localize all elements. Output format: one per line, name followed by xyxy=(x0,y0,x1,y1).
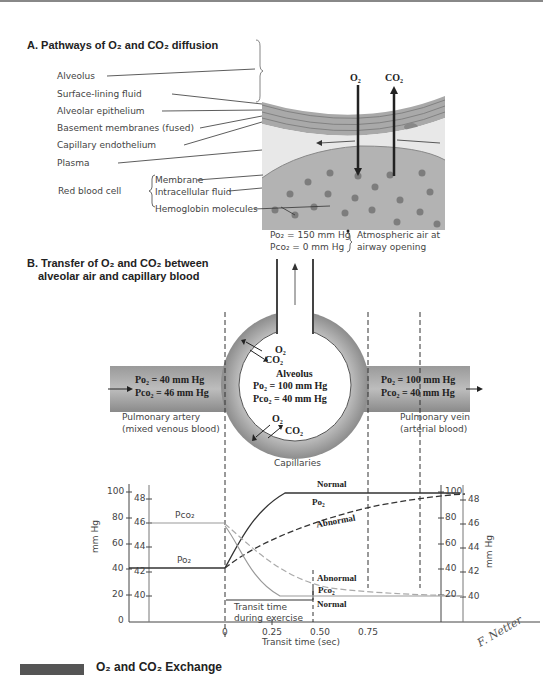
ry-tick-40: 40 xyxy=(445,563,456,573)
annot-po2-normal: Normal xyxy=(317,479,347,489)
y2-tick-46: 46 xyxy=(134,517,145,527)
y-tick-0: 0 xyxy=(118,615,124,625)
y2-tick-40: 40 xyxy=(134,590,145,600)
ry2-tick-46: 46 xyxy=(468,518,479,528)
artery-pco2: Pco₂ = 46 mm Hg xyxy=(135,387,209,398)
panel-b-title-2: alveolar air and capillary blood xyxy=(38,270,199,282)
x-tick-0: 0 xyxy=(222,627,228,637)
artery-po2: Po₂ = 40 mm Hg xyxy=(135,374,204,385)
atm-po2: Po₂ = 150 mm Hg xyxy=(270,230,350,240)
x-axis-label: Transit time (sec) xyxy=(262,637,340,647)
panel-b-title-1: B. Transfer of O₂ and CO₂ between xyxy=(27,257,209,269)
y2-tick-44: 44 xyxy=(134,541,145,551)
ry-tick-100: 100 xyxy=(445,486,462,496)
atm-pco2: Pco₂ = 0 mm Hg xyxy=(270,242,344,252)
vein-label-1: Pulmonary vein xyxy=(400,412,470,422)
annot-pco2: Pco₂ xyxy=(318,585,335,595)
annot-po2: Po₂ xyxy=(312,497,325,507)
label-membrane: Membrane xyxy=(155,175,203,185)
label-red-blood-cell: Red blood cell xyxy=(58,186,121,196)
vein-po2: Po₂ = 100 mm Hg xyxy=(381,374,455,385)
label-basement-membranes: Basement membranes (fused) xyxy=(57,123,194,133)
annot-po2-baseline: Po₂ xyxy=(177,555,191,565)
y2-tick-42: 42 xyxy=(134,566,145,576)
atm-note-1: Atmospheric air at xyxy=(357,230,440,240)
capillaries-label: Capillaries xyxy=(274,458,321,468)
artery-label-2: (mixed venous blood) xyxy=(122,424,220,434)
annot-pco2-abnormal: Abnormal xyxy=(317,573,357,583)
label-hemoglobin-molecules: Hemoglobin molecules xyxy=(155,204,258,214)
x-tick-0.50: 0.50 xyxy=(310,627,330,637)
label-intracellular-fluid: Intracellular fluid xyxy=(155,187,231,197)
gas-co2-bottom: CO₂ xyxy=(285,425,303,436)
ry2-tick-44: 44 xyxy=(468,542,479,552)
annot-pco2-normal: Normal xyxy=(317,599,347,609)
y-tick-20: 20 xyxy=(112,589,123,599)
y-tick-60: 60 xyxy=(112,538,123,548)
ry-tick-20: 20 xyxy=(445,589,456,599)
alveolus-po2: Po₂ = 100 mm Hg xyxy=(253,380,327,391)
y2-tick-48: 48 xyxy=(134,493,145,503)
x-tick-0.75: 0.75 xyxy=(358,627,378,637)
alveolus-label: Alveolus xyxy=(276,368,313,379)
ry2-tick-48: 48 xyxy=(468,494,479,504)
atm-note-2: airway opening xyxy=(357,242,426,252)
label-plasma: Plasma xyxy=(57,158,89,168)
transit-exercise-1: Transit time xyxy=(234,602,287,612)
gas-o2-bottom: O₂ xyxy=(272,413,283,424)
label-alveolar-epithelium: Alveolar epithelium xyxy=(57,106,145,116)
ry-tick-60: 60 xyxy=(445,538,456,548)
label-capillary-endothelium: Capillary endothelium xyxy=(57,140,156,150)
ry-tick-80: 80 xyxy=(445,512,456,522)
o2-arrow-label: O₂ xyxy=(350,72,361,83)
vein-pco2: Pco₂ = 40 mm Hg xyxy=(381,387,455,398)
alveolus-pco2: Pco₂ = 40 mm Hg xyxy=(253,393,327,404)
ry2-tick-40: 40 xyxy=(468,591,479,601)
figure-caption: O₂ and CO₂ Exchange xyxy=(96,660,222,674)
ry2-tick-42: 42 xyxy=(468,566,479,576)
y-axis-label-right: mm Hg xyxy=(484,535,494,568)
label-alveolus: Alveolus xyxy=(57,71,95,81)
figure-number-badge xyxy=(20,664,84,675)
y-axis-label-left: mm Hg xyxy=(90,520,100,553)
gas-co2-top: CO₂ xyxy=(265,354,283,365)
y-tick-80: 80 xyxy=(112,512,123,522)
label-surface-lining-fluid: Surface-lining fluid xyxy=(57,89,142,99)
vein-label-2: (arterial blood) xyxy=(400,424,467,434)
diagram-graphics xyxy=(0,0,543,675)
co2-arrow-label: CO₂ xyxy=(385,72,403,83)
annot-pco2-baseline: Pco₂ xyxy=(175,510,195,520)
transit-exercise-2: during exercise xyxy=(234,613,303,623)
artery-label-1: Pulmonary artery xyxy=(122,412,200,422)
x-tick-0.25: 0.25 xyxy=(262,627,282,637)
y-tick-100: 100 xyxy=(107,486,124,496)
y-tick-40: 40 xyxy=(112,563,123,573)
